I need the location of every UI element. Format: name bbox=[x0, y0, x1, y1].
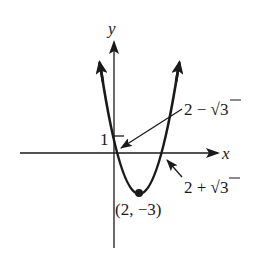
root-left-prefix: 2 − bbox=[184, 100, 211, 119]
vertex-point bbox=[135, 189, 143, 197]
radicand: 3 bbox=[220, 178, 229, 197]
vertex-label: (2, −3) bbox=[115, 200, 161, 219]
radicand: 3 bbox=[220, 100, 229, 119]
root-right-label: 2 + √3 bbox=[184, 178, 240, 197]
curve-arrow-left bbox=[100, 62, 104, 82]
y-axis-label: y bbox=[106, 19, 116, 38]
y-tick-label-1: 1 bbox=[100, 130, 109, 149]
root-right-prefix: 2 + bbox=[184, 178, 211, 197]
curve-arrow-right bbox=[176, 62, 180, 82]
plot-canvas: y x 1 (2, −3) 2 − √3 2 + √3 bbox=[0, 0, 257, 254]
x-axis-label: x bbox=[221, 144, 230, 163]
parabola-curve bbox=[101, 70, 178, 194]
root-right-pointer bbox=[167, 160, 182, 177]
parabola-figure: y x 1 (2, −3) 2 − √3 2 + √3 bbox=[0, 0, 257, 254]
svg-text:2 − √3: 2 − √3 bbox=[184, 100, 228, 119]
svg-text:2 + √3: 2 + √3 bbox=[184, 178, 228, 197]
root-left-label: 2 − √3 bbox=[184, 100, 241, 119]
root-left-pointer bbox=[121, 109, 182, 148]
